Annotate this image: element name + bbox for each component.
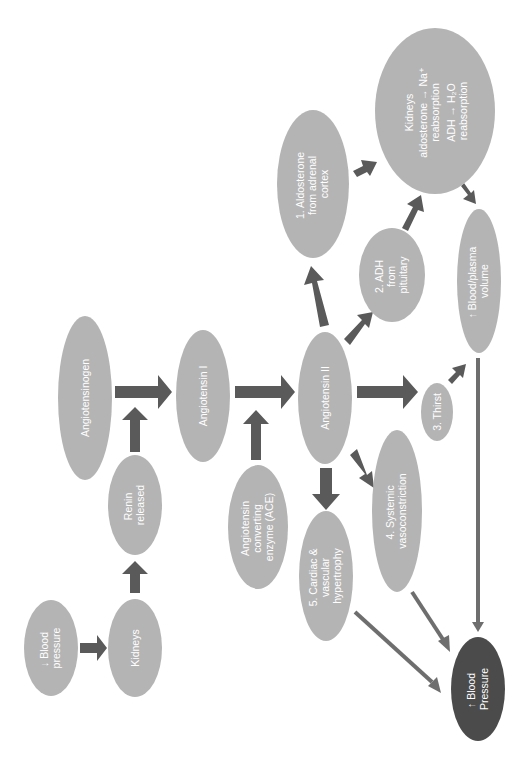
raas-diagram: ↓ Blood pressure Kidneys Renin released … — [0, 0, 521, 766]
node-label: volume — [478, 264, 490, 298]
node-label: vascular — [319, 557, 331, 597]
node-label: Angiotensin II — [319, 366, 331, 430]
node-label: ↑ Blood/plasma — [466, 246, 478, 318]
node-vasoconstriction: 4. Systemic vasoconstriction — [372, 430, 422, 592]
node-label: cortex — [318, 169, 330, 198]
node-label: 5. Cardiac & — [307, 549, 319, 607]
node-label: 2. ADH — [373, 260, 385, 293]
arrow-kidneys-to-renin — [122, 561, 148, 593]
svg-text:Angiotensinogen: Angiotensinogen — [79, 359, 91, 437]
svg-text:Angiotensin I: Angiotensin I — [197, 366, 209, 427]
arrow-kidneys-to-volume — [461, 183, 476, 204]
arrow-hypertrophy-to-bp — [355, 612, 441, 693]
arrow-aldosterone-to-kidneys — [353, 160, 377, 177]
node-label: ↑ Blood — [465, 673, 477, 708]
node-label: 1. Aldosterone — [294, 152, 306, 219]
arrow-angiotensin2-to-thirst — [357, 375, 418, 409]
node-label: Angiotensin — [239, 501, 251, 556]
node-label: from — [385, 266, 397, 287]
svg-text:Renin released: Renin released — [122, 485, 146, 525]
arrow-angiotensin2-to-vasoconstriction — [350, 449, 374, 488]
arrow-angiotensin2-to-adh — [344, 312, 373, 345]
svg-text:3. Thirst: 3. Thirst — [431, 393, 443, 431]
arrow-angiotensinogen-to-angiotensin1 — [115, 375, 172, 409]
node-label: pituitary — [397, 256, 409, 294]
node-blood-pressure-low: ↓ Blood pressure — [24, 600, 78, 696]
node-label: enzyme (ACE) — [263, 493, 275, 561]
node-angiotensin-ii: Angiotensin II — [298, 332, 352, 464]
node-kidneys-start: Kidneys — [108, 599, 162, 697]
svg-text:↓ Blood pressure: ↓ Blood pressure — [38, 627, 62, 668]
node-label: Pressure — [478, 668, 490, 710]
node-label: vasoconstriction — [396, 473, 408, 548]
svg-text:4. Systemic vasoconstric: 4. Systemic vasoconstriction — [384, 473, 408, 548]
arrow-vasoconstriction-to-bp — [412, 592, 450, 652]
node-blood-plasma-volume: ↑ Blood/plasma volume — [457, 209, 501, 353]
node-label: Renin — [122, 493, 134, 521]
node-aldosterone: 1. Aldosterone from adrenal cortex — [277, 110, 349, 258]
node-label: Angiotensin I — [197, 366, 209, 427]
node-label: pressure — [50, 627, 62, 668]
node-label: Kidneys — [129, 629, 141, 666]
arrow-renin-to-conversion — [122, 407, 148, 452]
node-label: reabsorption — [457, 82, 469, 141]
node-renin-released: Renin released — [108, 455, 162, 555]
arrow-bp-to-kidneys — [80, 635, 107, 661]
node-adh: 2. ADH from pituitary — [359, 228, 425, 322]
arrow-thirst-to-volume — [448, 364, 466, 384]
node-label: hypertrophy — [331, 548, 343, 604]
node-label: reabsorption — [429, 83, 441, 142]
arrow-angiotensin2-to-aldosterone — [304, 266, 329, 327]
arrow-angiotensin1-to-angiotensin2 — [235, 375, 295, 409]
svg-text:Angiotensin converting: Angiotensin converting enzyme (ACE) — [239, 493, 275, 561]
node-title: Kidneys — [403, 94, 415, 131]
node-label: 3. Thirst — [431, 393, 443, 431]
arrow-ace-to-conversion — [243, 410, 269, 460]
node-hypertrophy: 5. Cardiac & vascular hypertrophy — [299, 511, 353, 641]
node-thirst: 3. Thirst — [421, 383, 453, 441]
node-blood-pressure-high: ↑ Blood Pressure — [451, 637, 505, 741]
svg-text:Angiotensin II: Angiotensin II — [319, 366, 331, 430]
node-kidneys-effect: Kidneys aldosterone → Na⁺ reabsorption A… — [375, 28, 495, 194]
node-label: ADH → H₂O — [445, 83, 457, 141]
node-ace: Angiotensin converting enzyme (ACE) — [228, 465, 288, 589]
arrow-angiotensin2-to-hypertrophy — [312, 468, 340, 510]
arrow-adh-to-kidneys — [402, 195, 424, 231]
node-angiotensinogen: Angiotensinogen — [58, 316, 112, 480]
svg-text:Kidneys: Kidneys — [129, 629, 141, 666]
node-label: ↓ Blood — [38, 632, 50, 667]
arrow-volume-to-bp — [472, 358, 484, 632]
node-label: aldosterone → Na⁺ — [417, 67, 429, 158]
node-label: from adrenal — [306, 156, 318, 215]
node-label: 4. Systemic — [384, 485, 396, 539]
node-angiotensin-i: Angiotensin I — [176, 330, 230, 462]
svg-text:↑ Blood Pressure: ↑ Blood Pressure — [465, 668, 490, 710]
node-label: Angiotensinogen — [79, 359, 91, 437]
node-label: converting — [251, 504, 263, 553]
node-label: released — [134, 485, 146, 525]
